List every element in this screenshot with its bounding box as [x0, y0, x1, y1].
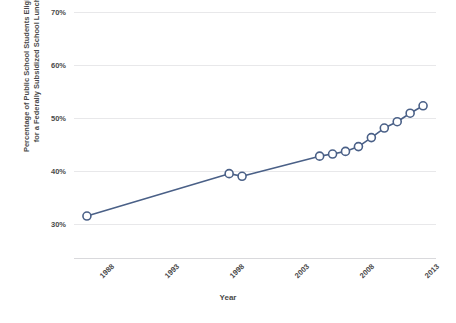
y-tick-label: 30%: [26, 220, 66, 229]
y-axis-title: Percentage of Public School Students Eli…: [22, 0, 42, 175]
x-tick-label: 2013: [423, 262, 441, 280]
x-tick-label: 2008: [358, 262, 376, 280]
chart-container: 70% 60% 50% 40% 30% 1988 1993 1998 2003 …: [0, 0, 456, 323]
x-tick-label: 1988: [98, 262, 116, 280]
x-tick-label: 1998: [228, 262, 246, 280]
x-tick-label: 2003: [293, 262, 311, 280]
x-axis-title: Year: [0, 293, 456, 302]
y-axis-title-line1: Percentage of Public School Students Eli…: [22, 0, 32, 175]
x-axis-line: [74, 258, 436, 259]
y-axis-ticks: 70% 60% 50% 40% 30%: [0, 12, 456, 224]
gridline-30: [74, 224, 436, 225]
x-tick-label: 1993: [163, 262, 181, 280]
y-axis-title-line2: for a Federally Subsidized School Lunch: [32, 0, 42, 175]
